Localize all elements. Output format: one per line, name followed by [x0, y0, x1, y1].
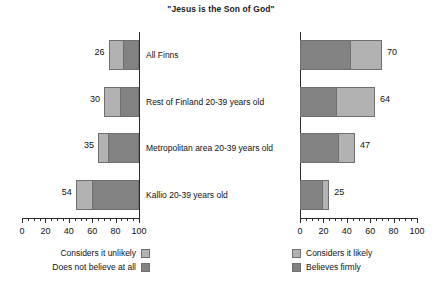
- bar-segment-dark: [108, 134, 138, 162]
- axis-tick: [98, 218, 99, 221]
- stacked-bar[interactable]: [98, 133, 139, 163]
- axis-tick: [399, 218, 400, 221]
- bar-segment-light: [105, 88, 122, 116]
- axis-tick-label: 100: [403, 226, 431, 236]
- legend-item[interactable]: Does not believe at all: [0, 260, 150, 274]
- bar-segment-dark: [301, 88, 337, 116]
- axis-tick: [341, 218, 342, 221]
- bar-value-label: 64: [380, 94, 400, 104]
- axis-tick: [133, 218, 134, 221]
- axis-tick: [417, 218, 418, 223]
- stacked-bar[interactable]: [300, 180, 329, 210]
- legend-label: Considers it unlikely: [60, 248, 136, 258]
- bar-value-label: 30: [80, 94, 100, 104]
- axis-tick: [75, 218, 76, 221]
- bar-row: 35: [22, 125, 139, 172]
- bar-value-label: 54: [52, 187, 72, 197]
- axis-tick: [57, 218, 58, 221]
- legend-label: Considers it likely: [306, 248, 372, 258]
- axis-tick: [69, 218, 70, 223]
- axis-tick: [312, 218, 313, 221]
- bar-row: 47: [300, 125, 417, 172]
- axis-tick: [63, 218, 64, 221]
- left-axis-tick-labels: 100806040200: [8, 226, 153, 238]
- axis-tick: [329, 218, 330, 221]
- axis-tick: [110, 218, 111, 221]
- axis-tick: [121, 218, 122, 221]
- bar-row: 70: [300, 32, 417, 79]
- bar-segment-light: [338, 134, 354, 162]
- axis-tick: [364, 218, 365, 221]
- bar-row: 25: [300, 172, 417, 219]
- axis-tick: [318, 218, 319, 221]
- axis-tick: [127, 218, 128, 221]
- category-label: Rest of Finland 20-39 years old: [146, 97, 264, 107]
- category-labels: All FinnsRest of Finland 20-39 years old…: [146, 32, 296, 218]
- stacked-bar[interactable]: [300, 87, 375, 117]
- axis-tick: [40, 218, 41, 221]
- bar-segment-dark: [301, 181, 323, 209]
- axis-tick: [92, 218, 93, 223]
- bar-value-label: 70: [387, 47, 407, 57]
- axis-tick: [104, 218, 105, 221]
- right-axis-tick-labels: 020406080100: [286, 226, 431, 238]
- stacked-bar[interactable]: [76, 180, 139, 210]
- bar-segment-dark: [92, 181, 138, 209]
- legend-swatch-icon: [292, 249, 301, 258]
- axis-tick: [323, 218, 324, 223]
- legend-item[interactable]: Considers it likely: [292, 246, 442, 260]
- legend-left: Considers it unlikelyDoes not believe at…: [0, 246, 150, 274]
- legend-swatch-icon: [292, 263, 301, 272]
- legend-item[interactable]: Considers it unlikely: [0, 246, 150, 260]
- stacked-bar[interactable]: [300, 133, 355, 163]
- bar-segment-light: [336, 88, 373, 116]
- axis-tick: [22, 218, 23, 223]
- left-plot-area: 26303554 100806040200: [22, 32, 139, 218]
- axis-tick: [370, 218, 371, 223]
- bar-segment-dark: [301, 41, 351, 69]
- bar-value-label: 25: [334, 187, 354, 197]
- axis-tick: [306, 218, 307, 221]
- bar-value-label: 26: [85, 47, 105, 57]
- legend-item[interactable]: Believes firmly: [292, 260, 442, 274]
- axis-tick-label: 0: [8, 226, 36, 236]
- legend-label: Believes firmly: [306, 262, 361, 272]
- left-axis-line: [139, 32, 140, 218]
- axis-tick: [353, 218, 354, 221]
- left-axis-ticks: [22, 218, 139, 224]
- stacked-bar[interactable]: [109, 40, 139, 70]
- axis-tick: [34, 218, 35, 221]
- axis-tick: [45, 218, 46, 223]
- bar-segment-dark: [301, 134, 339, 162]
- stacked-bar[interactable]: [104, 87, 139, 117]
- bar-row: 26: [22, 32, 139, 79]
- axis-tick: [394, 218, 395, 223]
- axis-tick: [51, 218, 52, 221]
- axis-tick: [139, 218, 140, 223]
- bar-segment-light: [322, 181, 328, 209]
- category-label: All Finns: [146, 50, 179, 60]
- axis-tick: [28, 218, 29, 221]
- bar-value-label: 35: [74, 140, 94, 150]
- axis-tick: [388, 218, 389, 221]
- bar-segment-dark: [120, 88, 138, 116]
- bar-segment-light: [350, 41, 381, 69]
- chart-title: "Jesus is the Son of God": [0, 4, 442, 14]
- axis-tick: [300, 218, 301, 223]
- bar-row: 64: [300, 79, 417, 126]
- legend-label: Does not believe at all: [52, 262, 136, 272]
- legend-right: Considers it likelyBelieves firmly: [292, 246, 442, 274]
- bar-row: 54: [22, 172, 139, 219]
- right-plot-area: 70644725 020406080100: [300, 32, 417, 218]
- bar-value-label: 47: [360, 140, 380, 150]
- axis-tick: [81, 218, 82, 221]
- axis-tick: [335, 218, 336, 221]
- stacked-bar[interactable]: [300, 40, 382, 70]
- axis-tick: [359, 218, 360, 221]
- legend-swatch-icon: [141, 263, 150, 272]
- legend-swatch-icon: [141, 249, 150, 258]
- right-axis-ticks: [300, 218, 417, 224]
- bar-segment-light: [110, 41, 124, 69]
- axis-tick: [116, 218, 117, 223]
- chart-container: "Jesus is the Son of God" 26303554 10080…: [0, 0, 442, 298]
